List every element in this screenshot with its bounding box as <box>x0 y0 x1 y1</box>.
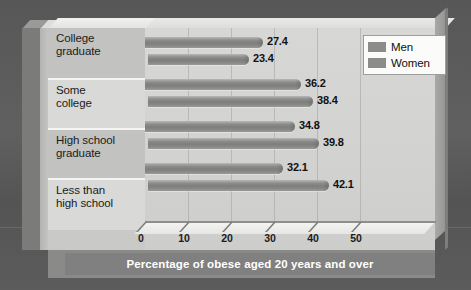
x-axis-title: Percentage of obese aged 20 years and ov… <box>65 253 435 275</box>
bar-women-high-school-graduate <box>148 138 319 149</box>
x-tick-label-20: 20 <box>221 232 233 244</box>
category-label-line2: graduate <box>56 147 145 160</box>
chart-legend: Men Women <box>363 35 446 75</box>
category-label-line2: college <box>56 97 145 110</box>
category-label-less-than-high-school: Less than high school <box>48 180 145 230</box>
x-tick-label-40: 40 <box>307 232 319 244</box>
legend-swatch-men-icon <box>368 42 386 52</box>
x-tick-label-10: 10 <box>178 232 190 244</box>
bar-value-men-some-college: 36.2 <box>305 77 326 89</box>
category-label-high-school-graduate: High school graduate <box>48 130 145 178</box>
x-tick-label-30: 30 <box>264 232 276 244</box>
category-block-left-face <box>40 28 48 250</box>
category-label-line1: Some <box>56 84 145 97</box>
bar-women-less-than-high-school <box>148 180 329 191</box>
bar-women-college-graduate <box>148 54 249 65</box>
bar-value-women-less-than-high-school: 42.1 <box>333 178 354 190</box>
bar-value-men-high-school-graduate: 34.8 <box>299 119 320 131</box>
category-label-some-college: Some college <box>48 80 145 128</box>
bar-men-some-college <box>145 79 301 90</box>
bar-value-women-high-school-graduate: 39.8 <box>323 136 344 148</box>
category-label-line1: High school <box>56 134 145 147</box>
legend-swatch-women-icon <box>368 58 386 68</box>
category-label-line2: graduate <box>56 45 145 58</box>
bar-chart-3d: Education Level College graduate Some co… <box>18 10 452 278</box>
legend-item-women: Women <box>368 55 441 71</box>
bar-men-less-than-high-school <box>145 163 283 174</box>
category-label-line1: Less than <box>56 184 145 197</box>
legend-label-men: Men <box>391 41 413 53</box>
x-tick-label-0: 0 <box>138 232 144 244</box>
category-label-college-graduate: College graduate <box>48 28 145 78</box>
bar-value-men-college-graduate: 27.4 <box>267 35 288 47</box>
bar-women-some-college <box>148 96 313 107</box>
legend-item-men: Men <box>368 39 441 55</box>
legend-label-women: Women <box>391 57 430 69</box>
bar-men-high-school-graduate <box>145 121 295 132</box>
bar-value-women-some-college: 38.4 <box>317 94 338 106</box>
category-label-line1: College <box>56 32 145 45</box>
category-label-line2: high school <box>56 197 145 210</box>
bar-value-men-less-than-high-school: 32.1 <box>287 161 308 173</box>
bar-value-women-college-graduate: 23.4 <box>253 52 274 64</box>
gridline-50 <box>360 28 361 222</box>
x-tick-label-50: 50 <box>350 232 362 244</box>
bar-men-college-graduate <box>145 37 263 48</box>
y-axis-band: Education Level <box>22 28 40 250</box>
